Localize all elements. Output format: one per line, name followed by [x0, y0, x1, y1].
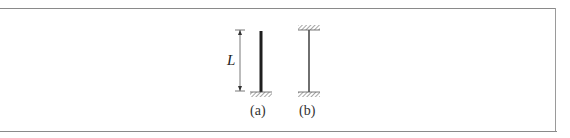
dimension-label-L: L: [227, 53, 235, 67]
column-a-label: (a): [250, 104, 266, 118]
fixed-support-bottom-hatch-icon: [298, 92, 320, 97]
column-a: [250, 31, 272, 97]
arrowhead-down-icon: [238, 86, 242, 91]
dimension-line: [235, 30, 245, 91]
diagram-drawing: [0, 0, 570, 138]
fixed-support-hatch-icon: [250, 92, 272, 97]
column-b-label: (b): [299, 104, 315, 118]
column-b: [298, 25, 320, 97]
fixed-support-top-hatch-icon: [298, 25, 320, 30]
arrowhead-up-icon: [238, 30, 242, 35]
column-diagram-figure: L (a) (b): [0, 0, 570, 138]
